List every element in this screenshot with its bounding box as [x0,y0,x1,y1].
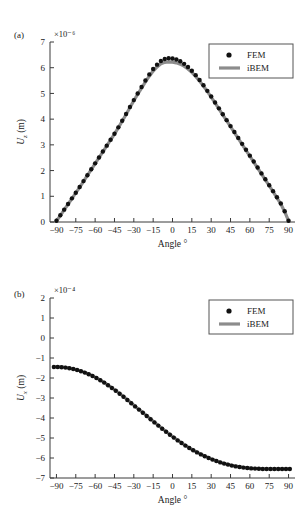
y-tick-label: 0 [41,333,46,343]
data-point [66,202,70,206]
svg-text:Uz (m): Uz (m) [16,119,29,145]
y-tick-label: 3 [41,140,46,150]
x-tick-label: 45 [226,225,236,235]
x-tick-label: −15 [146,481,161,491]
x-tick-label: −15 [146,225,161,235]
data-point [218,460,222,464]
x-tick-label: 75 [265,225,275,235]
data-point [77,185,81,189]
x-tick-label: 0 [170,481,175,491]
legend-label-fem: FEM [247,50,266,60]
x-tick-label: −90 [49,481,64,491]
x-tick-label: 60 [245,225,255,235]
data-point [133,404,137,408]
data-point [143,78,147,82]
data-point [121,395,125,399]
x-tick-label: 60 [245,481,255,491]
y-tick-label: −6 [35,453,45,463]
data-point [221,112,225,116]
data-point [261,467,265,471]
data-point [74,190,78,194]
data-point [101,149,105,153]
data-point [98,378,102,382]
x-tick-label: 75 [265,481,275,491]
data-point [249,466,253,470]
data-point [191,448,195,452]
data-point [183,443,187,447]
data-point [209,94,213,98]
y-axis-exponent: ×10⁻⁶ [54,29,75,39]
chart-panel-b: (b) ×10⁻⁴−7−6−5−4−3−2−1012−90−75−60−45−3… [0,260,308,521]
data-point [81,179,85,183]
data-point [102,380,106,384]
x-tick-label: −60 [88,481,103,491]
series-markers-fem [54,56,290,223]
data-point [63,365,67,369]
data-point [233,464,237,468]
data-point [114,389,118,393]
x-tick-label: −75 [69,225,84,235]
data-point [71,367,75,371]
data-point [226,462,230,466]
data-point [110,386,114,390]
data-point [124,112,128,116]
data-point [206,456,210,460]
legend: FEMiBEM [209,44,293,78]
data-point [145,414,149,418]
data-point [187,446,191,450]
data-point [264,467,268,471]
data-point [93,161,97,165]
y-tick-label: −7 [35,473,45,483]
data-point [159,59,163,63]
data-point [79,369,83,373]
x-tick-label: 0 [170,225,175,235]
data-point [245,466,249,470]
data-point [54,219,58,223]
data-point [117,392,121,396]
data-point [67,366,71,370]
legend-marker-fem [226,52,231,57]
data-point [214,459,218,463]
data-point [116,125,120,129]
data-point [230,463,234,467]
data-point [170,56,174,60]
chart-panel-a: (a) ×10⁻⁶01234567−90−75−60−45−30−1501530… [0,0,308,260]
data-point [210,457,214,461]
data-point [236,136,240,140]
data-point [237,465,241,469]
data-point [276,467,280,471]
y-tick-label: −5 [35,433,45,443]
data-point [194,73,198,77]
data-point [151,67,155,71]
data-point [241,465,245,469]
data-point [240,142,244,146]
chart-a-svg: ×10⁻⁶01234567−90−75−60−45−30−15015304560… [0,0,308,260]
x-tick-label: −30 [127,225,142,235]
data-point [255,165,259,169]
svg-text:Ux (m): Ux (m) [16,375,29,401]
x-tick-label: 90 [284,481,294,491]
y-axis-title: Ux (m) [16,375,29,401]
data-point [197,78,201,82]
x-tick-label: 15 [187,481,197,491]
legend-marker-fem [226,308,231,313]
data-point [56,365,60,369]
data-point [186,65,190,69]
data-point [272,467,276,471]
y-tick-label: 1 [41,191,46,201]
data-point [280,467,284,471]
y-tick-label: 2 [41,166,46,176]
data-point [166,56,170,60]
y-tick-label: −2 [35,373,45,383]
data-point [83,370,87,374]
data-point [267,183,271,187]
data-point [148,417,152,421]
x-tick-label: −75 [69,481,84,491]
data-point [217,106,221,110]
data-point [259,171,263,175]
y-tick-label: −1 [35,353,45,363]
data-point [132,98,136,102]
x-axis-title: Angle ° [158,495,188,505]
data-point [172,435,176,439]
data-point [86,372,90,376]
